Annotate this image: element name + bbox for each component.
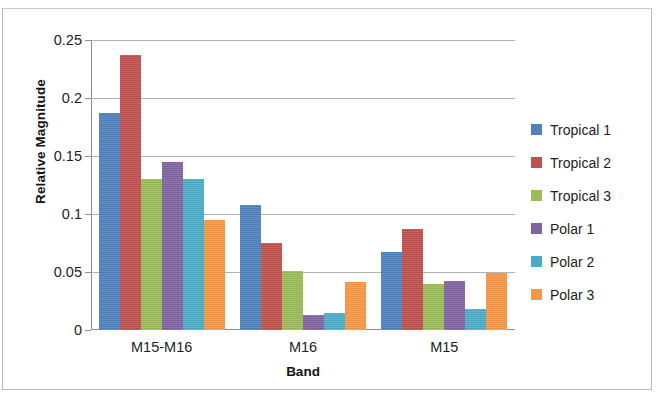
bar-groups: M15-M16M16M15	[91, 40, 515, 330]
y-tick-label: 0.2	[62, 90, 82, 106]
legend-item[interactable]: Polar 3	[531, 278, 646, 311]
y-tick-label: 0.15	[54, 148, 82, 164]
chart-frame: Relative Magnitude 00.050.10.150.20.25 M…	[2, 8, 652, 390]
bar[interactable]	[303, 315, 324, 330]
bar[interactable]	[345, 282, 366, 330]
y-tick-label: 0.25	[54, 32, 82, 48]
legend-label: Tropical 3	[550, 188, 611, 204]
legend-swatch-icon	[531, 124, 542, 135]
legend-label: Polar 2	[550, 254, 594, 270]
legend-swatch-icon	[531, 190, 542, 201]
bar[interactable]	[261, 243, 282, 330]
legend-swatch-icon	[531, 256, 542, 267]
bar[interactable]	[183, 179, 204, 330]
bar[interactable]	[381, 252, 402, 330]
y-axis-title: Relative Magnitude	[33, 42, 48, 242]
x-axis-category-label: M16	[232, 339, 373, 355]
x-axis-category-label: M15-M16	[91, 339, 232, 355]
y-tick-mark	[85, 330, 91, 331]
y-tick-label: 0.1	[62, 206, 82, 222]
bar[interactable]	[486, 273, 507, 330]
bar[interactable]	[120, 55, 141, 330]
legend-swatch-icon	[531, 157, 542, 168]
legend-item[interactable]: Tropical 2	[531, 146, 646, 179]
bar[interactable]	[99, 113, 120, 330]
legend-item[interactable]: Polar 2	[531, 245, 646, 278]
bar[interactable]	[141, 179, 162, 330]
y-tick-label: 0	[74, 322, 82, 338]
bar[interactable]	[204, 220, 225, 330]
bar[interactable]	[162, 162, 183, 330]
bar[interactable]	[282, 271, 303, 330]
y-tick-label: 0.05	[54, 264, 82, 280]
legend-item[interactable]: Tropical 3	[531, 179, 646, 212]
x-axis-title: Band	[91, 364, 515, 379]
bar[interactable]	[324, 313, 345, 330]
bar-group: M15	[374, 40, 515, 330]
legend: Tropical 1Tropical 2Tropical 3Polar 1Pol…	[531, 113, 646, 311]
bar-group: M16	[232, 40, 373, 330]
bar-group: M15-M16	[91, 40, 232, 330]
legend-label: Polar 1	[550, 221, 594, 237]
legend-label: Tropical 2	[550, 155, 611, 171]
legend-swatch-icon	[531, 223, 542, 234]
bar[interactable]	[423, 284, 444, 330]
x-axis-category-label: M15	[374, 339, 515, 355]
legend-item[interactable]: Tropical 1	[531, 113, 646, 146]
legend-item[interactable]: Polar 1	[531, 212, 646, 245]
legend-swatch-icon	[531, 289, 542, 300]
bar[interactable]	[240, 205, 261, 330]
bar[interactable]	[444, 281, 465, 330]
legend-label: Polar 3	[550, 287, 594, 303]
bar[interactable]	[465, 309, 486, 330]
legend-label: Tropical 1	[550, 122, 611, 138]
bar[interactable]	[402, 229, 423, 330]
plot-area: 00.050.10.150.20.25 M15-M16M16M15	[91, 40, 515, 330]
